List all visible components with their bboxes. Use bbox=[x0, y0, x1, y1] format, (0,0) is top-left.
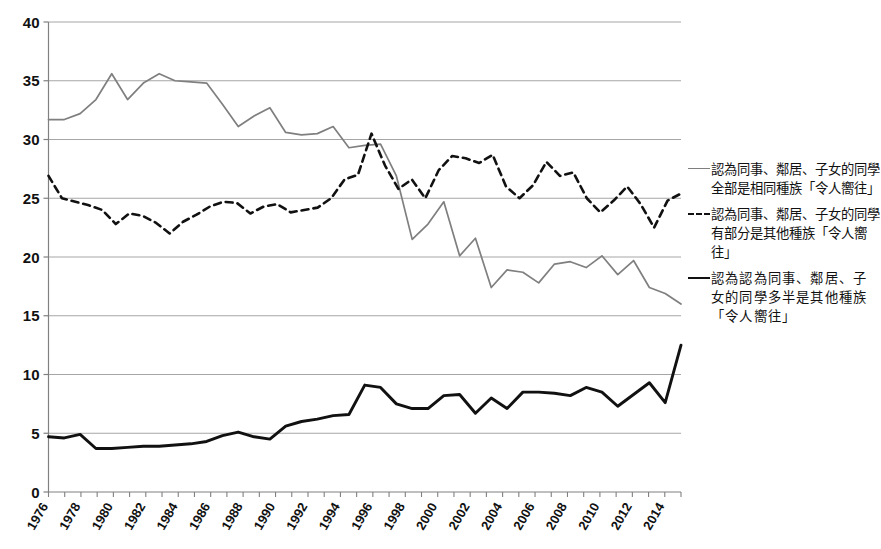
y-tick-label: 25 bbox=[23, 190, 40, 207]
legend-item-1-label: 認為同事、鄰居、子女的同學全部是相同種族「令人嚮往」 bbox=[711, 160, 881, 198]
y-tick-label: 20 bbox=[23, 249, 40, 266]
x-tick-label: 1978 bbox=[56, 500, 83, 533]
y-tick-label: 0 bbox=[31, 484, 39, 501]
x-tick-label: 1984 bbox=[153, 499, 181, 532]
x-tick-label: 1996 bbox=[348, 500, 375, 533]
x-tick-label: 1988 bbox=[218, 500, 245, 533]
series-line-1 bbox=[49, 74, 682, 304]
legend-item-3-label: 認為認為同事、鄰居、子女的同學多半是其他種族「令人嚮往」 bbox=[711, 269, 881, 326]
chart-page: 0510152025303540197619781980198219841986… bbox=[0, 0, 881, 549]
solid-thick-line-icon bbox=[688, 269, 710, 287]
x-tick-label: 1980 bbox=[89, 500, 116, 533]
y-tick-label: 10 bbox=[23, 366, 40, 383]
x-tick-label: 1986 bbox=[186, 500, 213, 533]
x-tick-label: 1982 bbox=[121, 500, 148, 533]
x-tick-label: 2014 bbox=[640, 499, 668, 532]
y-tick-label: 5 bbox=[31, 425, 39, 442]
dashed-line-icon bbox=[688, 205, 710, 223]
x-tick-label: 1998 bbox=[380, 500, 407, 533]
chart-legend: 認為同事、鄰居、子女的同學全部是相同種族「令人嚮往」 認為同事、鄰居、子女的同學… bbox=[688, 160, 881, 333]
y-tick-label: 40 bbox=[23, 14, 40, 31]
line-chart: 0510152025303540197619781980198219841986… bbox=[0, 0, 700, 549]
x-tick-label: 1994 bbox=[316, 499, 344, 532]
legend-item-1[interactable]: 認為同事、鄰居、子女的同學全部是相同種族「令人嚮往」 bbox=[688, 160, 881, 198]
legend-item-2-label: 認為同事、鄰居、子女的同學有部分是其他種族「令人嚮往」 bbox=[711, 205, 881, 262]
x-tick-label: 2004 bbox=[478, 499, 506, 532]
x-tick-label: 2000 bbox=[413, 500, 440, 533]
x-tick-label: 1990 bbox=[251, 500, 278, 533]
x-tick-label: 2010 bbox=[575, 500, 602, 533]
series-line-2 bbox=[49, 134, 682, 234]
y-tick-label: 35 bbox=[23, 72, 40, 89]
x-tick-label: 1976 bbox=[24, 500, 51, 533]
legend-item-2[interactable]: 認為同事、鄰居、子女的同學有部分是其他種族「令人嚮往」 bbox=[688, 205, 881, 262]
x-tick-label: 1992 bbox=[283, 500, 310, 533]
chart-plot-area: 0510152025303540197619781980198219841986… bbox=[0, 0, 700, 549]
x-tick-label: 2008 bbox=[543, 500, 570, 533]
x-tick-label: 2006 bbox=[510, 500, 537, 533]
legend-item-3[interactable]: 認為認為同事、鄰居、子女的同學多半是其他種族「令人嚮往」 bbox=[688, 269, 881, 326]
x-tick-label: 2012 bbox=[607, 500, 634, 533]
solid-thin-line-icon bbox=[688, 160, 710, 178]
y-tick-label: 30 bbox=[23, 131, 40, 148]
y-tick-label: 15 bbox=[23, 307, 40, 324]
x-tick-label: 2002 bbox=[445, 500, 472, 533]
